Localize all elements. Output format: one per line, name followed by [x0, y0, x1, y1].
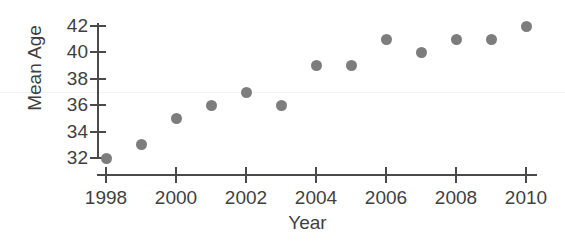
data-point — [206, 100, 217, 111]
data-point — [171, 113, 182, 124]
data-point — [381, 34, 392, 45]
data-point — [311, 60, 322, 71]
data-point — [521, 21, 532, 32]
data-point — [451, 34, 462, 45]
data-point — [101, 153, 112, 164]
plot-area — [0, 0, 565, 249]
data-point — [276, 100, 287, 111]
data-point — [486, 34, 497, 45]
data-point — [241, 87, 252, 98]
data-point — [416, 47, 427, 58]
data-point — [346, 60, 357, 71]
data-point — [136, 139, 147, 150]
scatter-chart-figure: Mean Age 323436384042 199820002002200420… — [0, 0, 565, 249]
